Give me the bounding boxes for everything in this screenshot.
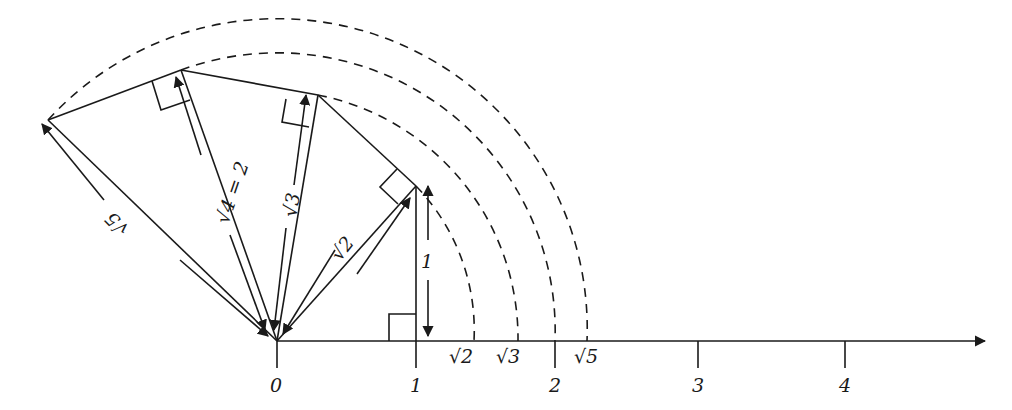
number-line [277, 186, 985, 368]
hyp-label-sqrt3: √3 [278, 191, 304, 219]
tick-label-4: 4 [838, 374, 851, 396]
tick-label-1: 1 [410, 374, 422, 396]
root-label-sqrt3: √3 [496, 345, 520, 367]
arcs [48, 19, 587, 341]
hyp-label-sqrt4: √4 = 2 [211, 158, 253, 226]
root-label-sqrt5: √5 [574, 345, 598, 367]
spiral-diagram: 0 1 2 3 4 √2 √3 √5 1 √2 √3 √4 = 2 √5 [0, 0, 1012, 410]
tick-label-3: 3 [692, 374, 704, 396]
root-label-sqrt2: √2 [449, 345, 473, 367]
hyp-label-sqrt2: √2 [326, 232, 358, 265]
leg-label: 1 [421, 250, 433, 272]
tick-label-2: 2 [548, 374, 561, 396]
tick-label-0: 0 [270, 374, 282, 396]
labels: 0 1 2 3 4 √2 √3 √5 1 √2 √3 √4 = 2 √5 [100, 158, 851, 396]
hyp-label-sqrt5: √5 [100, 208, 133, 241]
